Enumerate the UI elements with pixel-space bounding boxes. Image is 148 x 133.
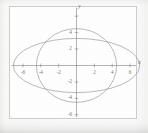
x-tick-label: -4 bbox=[39, 70, 43, 75]
x-tick-label: -6 bbox=[21, 70, 25, 75]
y-tick-label: -2 bbox=[68, 79, 72, 84]
axes-group bbox=[12, 8, 137, 118]
x-tick-label: -2 bbox=[57, 70, 61, 75]
plot-canvas bbox=[0, 0, 148, 133]
x-tick-label: 6 bbox=[129, 70, 131, 75]
y-tick-label: 2 bbox=[69, 46, 71, 51]
x-tick-label: 4 bbox=[111, 70, 113, 75]
y-axis-label: y bbox=[78, 4, 80, 9]
x-axis-label: x bbox=[138, 60, 140, 65]
graph-figure: -6 -4 -2 2 4 6 4 2 -2 -4 -6 y x bbox=[0, 0, 148, 133]
y-tick-label: -4 bbox=[68, 96, 72, 101]
y-tick-label: 4 bbox=[69, 30, 71, 35]
x-tick-label: 2 bbox=[93, 70, 95, 75]
y-tick-label: -6 bbox=[68, 112, 72, 117]
